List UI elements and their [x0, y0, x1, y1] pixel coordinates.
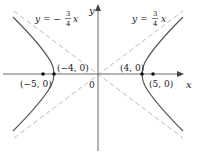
svg-text:3: 3	[66, 10, 70, 18]
svg-text:x: x	[73, 14, 78, 24]
right-focus-point	[151, 72, 155, 76]
x-axis-label: x	[186, 79, 192, 90]
left-focus-label: (−5, 0)	[20, 79, 52, 89]
svg-text:y = −: y = −	[34, 14, 61, 24]
y-axis-arrow-icon	[95, 4, 101, 11]
x-axis-arrow-icon	[177, 71, 184, 77]
svg-text:y =: y =	[131, 14, 148, 24]
svg-text:4: 4	[66, 20, 71, 28]
left-vertex-point	[52, 72, 56, 76]
left-focus-point	[41, 72, 45, 76]
right-focus-label: (5, 0)	[149, 79, 173, 89]
svg-text:x: x	[161, 14, 166, 24]
svg-text:3: 3	[153, 10, 157, 18]
asymptote-label-positive: y = 3 4 x	[131, 10, 166, 28]
hyperbola-diagram: y x 0 (−4, 0) (4, 0) (−5, 0) (5, 0) y = …	[0, 0, 198, 153]
right-vertex-label: (4, 0)	[120, 63, 144, 73]
svg-text:4: 4	[153, 20, 158, 28]
origin-label: 0	[89, 80, 95, 90]
y-axis-label: y	[88, 5, 95, 16]
left-vertex-label: (−4, 0)	[57, 63, 89, 73]
asymptote-label-negative: y = − 3 4 x	[34, 10, 78, 28]
